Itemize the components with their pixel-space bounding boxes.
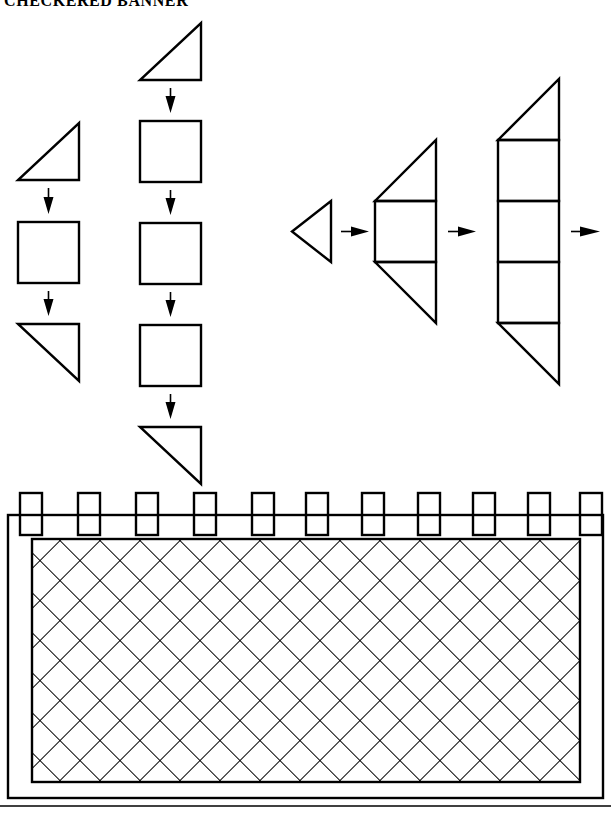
diagram-page: CHECKERED BANNER (0, 0, 611, 822)
arrow-down-icon (166, 88, 176, 113)
column-left (18, 123, 79, 381)
square-unit (140, 325, 201, 386)
progression-arrow-2 (448, 227, 476, 237)
triangle-down-unit (18, 324, 79, 381)
progression-step-2 (375, 140, 436, 323)
banner-checkered-panel (32, 539, 580, 782)
arrow-down-icon (166, 292, 176, 317)
checkered-fill (32, 539, 580, 782)
arrow-down-icon (44, 188, 54, 214)
square-unit (140, 223, 201, 284)
column-middle (140, 23, 201, 484)
finished-banner (0, 493, 611, 806)
triangle-down-unit (140, 427, 201, 484)
triangle-top-unit (375, 140, 436, 201)
triangle-left-unit (292, 201, 331, 262)
triangle-bottom-unit (498, 323, 559, 384)
triangle-up-unit (18, 123, 79, 180)
triangle-top-unit (498, 79, 559, 140)
triangle-up-unit (140, 23, 201, 80)
progression-step-1 (292, 201, 331, 262)
progression-arrow-3 (571, 227, 600, 237)
arrow-down-icon (166, 394, 176, 419)
square-unit (140, 121, 201, 182)
progression-step-3 (498, 79, 559, 384)
square-unit (498, 140, 559, 201)
square-unit (18, 222, 79, 283)
triangle-bottom-unit (375, 262, 436, 323)
square-unit (375, 201, 436, 262)
square-unit (498, 201, 559, 262)
arrow-down-icon (44, 291, 54, 316)
progression-arrow-1 (341, 227, 369, 237)
assembly-diagram-figure (0, 0, 611, 822)
square-unit (498, 262, 559, 323)
arrow-down-icon (166, 190, 176, 215)
